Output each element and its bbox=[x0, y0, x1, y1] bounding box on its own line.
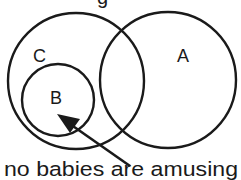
set-c-label: C bbox=[33, 46, 46, 66]
set-b-label: B bbox=[50, 88, 62, 108]
venn-diagram: g C A B no babies are amusing bbox=[0, 0, 241, 180]
cropped-heading-fragment: g bbox=[97, 0, 108, 8]
set-a-label: A bbox=[177, 46, 189, 66]
caption-text: no babies are amusing bbox=[4, 157, 238, 180]
set-a-circle bbox=[100, 12, 236, 148]
